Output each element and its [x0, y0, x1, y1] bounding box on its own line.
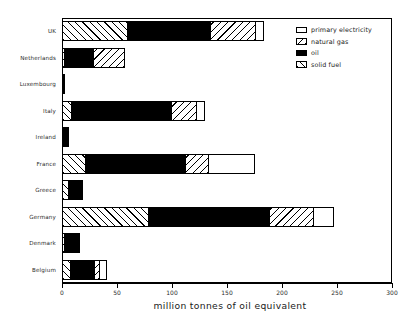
stacked-bar-chart-figure: UKNetherlandsLuxembourgItalyIrelandFranc… — [0, 0, 416, 331]
y-tick-label-france: France — [37, 161, 57, 167]
x-tick-label-200: 200 — [276, 289, 287, 296]
x-tick-label-300: 300 — [386, 289, 397, 296]
x-tick-300 — [392, 283, 393, 288]
y-tick-label-denmark: Denmark — [29, 240, 56, 246]
x-tick-label-0: 0 — [60, 289, 64, 296]
x-tick-250 — [337, 283, 338, 288]
legend-label-primary-electricity: primary electricity — [311, 26, 372, 34]
x-axis-title: million tonnes of oil equivalent — [0, 300, 416, 311]
y-tick-label-germany: Germany — [29, 214, 56, 220]
x-tick-200 — [282, 283, 283, 288]
y-tick-label-uk: UK — [48, 28, 56, 34]
legend-swatch-primary-electricity — [296, 27, 307, 34]
x-tick-label-50: 50 — [113, 289, 121, 296]
legend-label-oil: oil — [311, 49, 319, 57]
legend-swatch-oil — [296, 50, 307, 57]
x-tick-100 — [172, 283, 173, 288]
x-tick-label-250: 250 — [331, 289, 342, 296]
x-tick-label-150: 150 — [221, 289, 232, 296]
legend-label-solid-fuel: solid fuel — [311, 61, 341, 69]
y-tick-label-netherlands: Netherlands — [20, 55, 56, 61]
legend-swatch-solid-fuel — [296, 61, 307, 68]
x-tick-50 — [117, 283, 118, 288]
chart-legend: primary electricitynatural gasoilsolid f… — [296, 25, 392, 71]
legend-item-solid-fuel: solid fuel — [296, 60, 392, 70]
x-axis-title-text: million tonnes of oil equivalent — [154, 300, 307, 311]
x-tick-150 — [227, 283, 228, 288]
y-tick-label-luxembourg: Luxembourg — [20, 81, 56, 87]
y-tick-label-ireland: Ireland — [36, 134, 56, 140]
x-tick-label-100: 100 — [166, 289, 177, 296]
legend-item-natural-gas: natural gas — [296, 37, 392, 47]
legend-label-natural-gas: natural gas — [311, 38, 349, 46]
y-tick-label-greece: Greece — [35, 187, 56, 193]
x-tick-0 — [62, 283, 63, 288]
y-tick-label-belgium: Belgium — [32, 267, 56, 273]
legend-item-primary-electricity: primary electricity — [296, 25, 392, 35]
legend-item-oil: oil — [296, 48, 392, 58]
y-tick-label-italy: Italy — [43, 108, 56, 114]
legend-swatch-natural-gas — [296, 38, 307, 45]
